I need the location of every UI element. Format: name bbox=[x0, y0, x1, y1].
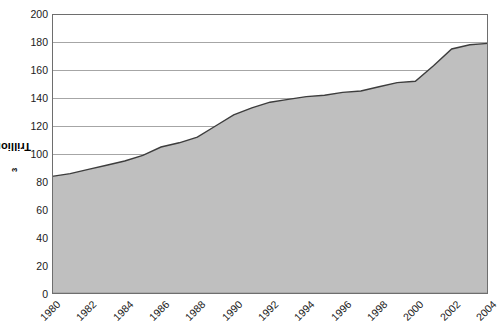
series-area bbox=[52, 43, 488, 294]
y-tick-label: 160 bbox=[22, 65, 48, 76]
x-tick-label: 1984 bbox=[105, 298, 135, 328]
x-tick-label: 1988 bbox=[178, 298, 208, 328]
y-tick-label: 40 bbox=[22, 233, 48, 244]
area-fill bbox=[52, 43, 488, 294]
x-tick-label: 1986 bbox=[142, 298, 172, 328]
y-tick-label: 180 bbox=[22, 37, 48, 48]
x-tick-label: 2002 bbox=[432, 298, 462, 328]
y-tick-label: 20 bbox=[22, 261, 48, 272]
x-tick-label: 1990 bbox=[214, 298, 244, 328]
y-tick-label: 200 bbox=[22, 9, 48, 20]
y-tick-label: 120 bbox=[22, 121, 48, 132]
x-tick-label: 1998 bbox=[360, 298, 390, 328]
x-tick-label: 1994 bbox=[287, 298, 317, 328]
y-tick-label: 80 bbox=[22, 177, 48, 188]
x-tick-label: 1996 bbox=[323, 298, 353, 328]
x-tick-label: 1992 bbox=[251, 298, 281, 328]
y-tick-label: 60 bbox=[22, 205, 48, 216]
y-axis-title-superscript: 3 bbox=[10, 168, 19, 172]
x-tick-label: 1982 bbox=[69, 298, 99, 328]
area-chart: Trillion m3 200180160140120100806040200 … bbox=[0, 0, 497, 336]
plot-svg bbox=[52, 14, 488, 294]
x-axis-tick-labels: 1980198219841986198819901992199419961998… bbox=[0, 296, 497, 336]
y-tick-label: 140 bbox=[22, 93, 48, 104]
y-axis-title: Trillion m3 bbox=[0, 0, 24, 294]
y-axis-tick-labels: 200180160140120100806040200 bbox=[22, 0, 48, 336]
x-tick-label: 1980 bbox=[33, 298, 63, 328]
x-tick-label: 2000 bbox=[396, 298, 426, 328]
y-tick-label: 100 bbox=[22, 149, 48, 160]
x-tick-label: 2004 bbox=[469, 298, 497, 328]
plot-area bbox=[52, 14, 488, 294]
